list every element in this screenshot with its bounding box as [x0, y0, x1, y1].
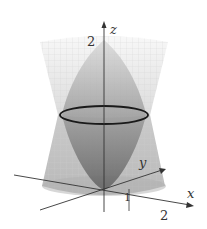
x-tick-label-2: 2 — [160, 208, 168, 223]
z-axis-arrow — [102, 21, 107, 28]
x-tick-label-1: 1 — [124, 191, 131, 204]
y-axis-label: y — [138, 155, 147, 170]
x-axis-label: x — [187, 186, 195, 201]
x-axis-arrow — [186, 202, 194, 208]
z-axis-label: z — [109, 22, 117, 37]
surface-diagram: z 2 y x 1 2 — [0, 0, 207, 229]
z-tick-label: 2 — [87, 34, 95, 49]
